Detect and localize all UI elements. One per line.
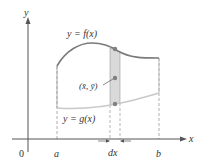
origin-label: 0 xyxy=(19,148,24,159)
dx-right-arrowhead-icon xyxy=(120,139,124,142)
lower-point xyxy=(113,102,117,106)
x-axis-arrow-icon xyxy=(180,137,187,142)
centroid-region-diagram: y x 0 a b dx y = f(x) y = g(x) (x̄, ȳ) xyxy=(0,0,209,159)
upper-curve-f xyxy=(57,43,159,66)
a-label: a xyxy=(54,148,59,159)
centroid-label: (x̄, ȳ) xyxy=(79,81,97,91)
centroid-point xyxy=(113,76,117,80)
y-axis-label: y xyxy=(23,7,29,18)
dx-left-arrowhead-icon xyxy=(106,139,110,142)
dx-label: dx xyxy=(108,147,118,158)
b-label: b xyxy=(156,148,161,159)
upper-point xyxy=(113,47,117,51)
y-axis-arrow-icon xyxy=(26,17,31,24)
lower-curve-label: y = g(x) xyxy=(62,113,96,125)
x-axis-label: x xyxy=(188,133,194,144)
lower-curve-g xyxy=(57,93,159,109)
upper-curve-label: y = f(x) xyxy=(66,28,98,40)
